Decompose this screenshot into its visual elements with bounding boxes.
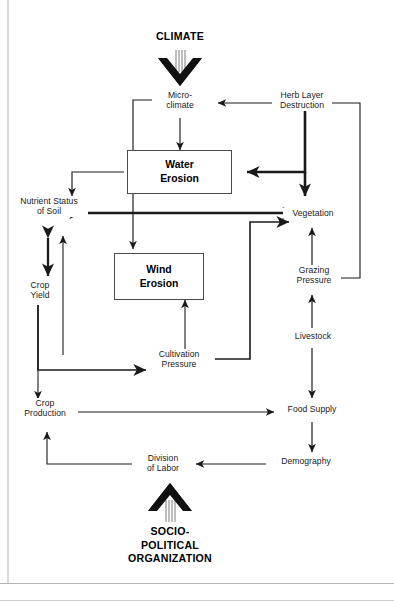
box-wind-erosion[interactable]: Wind Erosion xyxy=(114,253,204,300)
node-cultivation-pressure[interactable]: Cultivation Pressure xyxy=(147,349,211,370)
node-crop-yield[interactable]: Crop Yield xyxy=(20,280,60,301)
edge-herblayer-to-watererosion-and-vegetation xyxy=(247,110,305,196)
node-herb-layer-destruction[interactable]: Herb Layer Destruction xyxy=(272,90,332,111)
node-food-supply[interactable]: Food Supply xyxy=(280,404,344,414)
socio-political-chevron-arrow xyxy=(148,483,192,522)
node-grazing-pressure[interactable]: Grazing Pressure xyxy=(287,265,341,286)
node-nutrient-status-of-soil[interactable]: Nutrient Status of Soil xyxy=(10,196,88,217)
box-water-erosion[interactable]: Water Erosion xyxy=(127,150,232,194)
node-division-of-labor[interactable]: Division of Labor xyxy=(132,453,194,474)
edge-cropyield-to-cultivationpressure xyxy=(38,305,146,370)
edge-divisionoflabor-to-cropproduction xyxy=(47,432,132,464)
climate-chevron-arrow xyxy=(158,50,202,86)
socio-political-organization-pole-label: SOCIO- POLITICAL ORGANIZATION xyxy=(100,525,240,566)
node-micro-climate[interactable]: Micro- climate xyxy=(152,90,208,111)
node-demography[interactable]: Demography xyxy=(272,456,340,466)
edge-grazingpressure-to-herblayer xyxy=(324,103,360,278)
node-livestock[interactable]: Livestock xyxy=(287,331,339,341)
edge-watererosion-to-nutrientstatus xyxy=(72,172,124,196)
node-crop-production[interactable]: Crop Production xyxy=(12,398,78,419)
box-wind-erosion-label: Wind Erosion xyxy=(140,263,179,291)
climate-pole-label: CLIMATE xyxy=(120,30,240,44)
systems-diagram: Water Erosion Wind Erosion CLIMATE SOCIO… xyxy=(0,0,394,604)
box-water-erosion-label: Water Erosion xyxy=(160,158,199,186)
edge-cultivationpressure-to-vegetation xyxy=(215,222,289,359)
node-vegetation[interactable]: Vegetation xyxy=(283,208,343,218)
